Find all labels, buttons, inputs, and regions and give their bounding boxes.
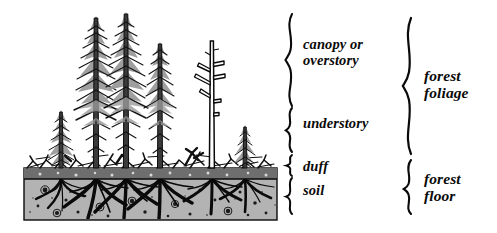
soil-block (24, 168, 277, 220)
brace-understory (286, 108, 292, 152)
label-foliage-line-1: forest (424, 67, 469, 84)
label-duff-text: duff (303, 158, 328, 174)
forest-structure-diagram: canopy or overstory understory duff soil… (0, 0, 497, 233)
label-canopy-line-1: canopy or (303, 36, 363, 52)
brace-forest-foliage (403, 18, 411, 154)
label-understory-text: understory (303, 115, 368, 131)
label-forest-floor: forest floor (424, 170, 461, 205)
group-braces (403, 18, 411, 214)
label-duff: duff (303, 158, 328, 174)
label-forest-foliage: forest foliage (424, 67, 469, 102)
label-canopy-overstory: canopy or overstory (303, 36, 363, 68)
brace-forest-floor (404, 160, 411, 214)
brace-duff (286, 155, 292, 176)
label-floor-line-1: forest (424, 170, 461, 187)
layer-braces (286, 14, 293, 214)
label-floor-line-2: floor (424, 187, 461, 204)
forest-cross-section-illustration (0, 0, 497, 233)
label-foliage-line-2: foliage (424, 84, 469, 101)
label-understory: understory (303, 115, 368, 131)
brace-canopy (286, 14, 293, 106)
dead-snag-tree (195, 41, 226, 168)
label-soil: soil (303, 182, 324, 198)
label-soil-text: soil (303, 182, 324, 198)
understory-tree-2 (234, 125, 255, 168)
canopy-tree-1 (74, 16, 118, 168)
duff-layer (24, 168, 277, 179)
brace-soil (286, 178, 292, 214)
canopy-tree-3 (144, 42, 176, 168)
label-canopy-line-2: overstory (303, 52, 363, 68)
